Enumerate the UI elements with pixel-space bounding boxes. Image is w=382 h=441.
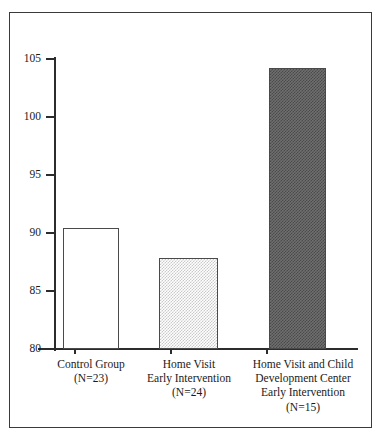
category-label-line: Development Center: [242, 371, 364, 385]
figure-frame: 105 100 95 90 85 80 Control Group (N=23): [9, 12, 372, 428]
bar-home-visit-early-intervention[interactable]: [159, 258, 218, 349]
category-label-line: Home Visit and Child: [242, 357, 364, 371]
category-label-home-visit-and-child-development-center: Home Visit and Child Development Center …: [242, 357, 364, 414]
y-tick-label-105: 105: [24, 53, 41, 64]
y-tick-label-100: 100: [24, 111, 41, 123]
category-label-line: (N=24): [134, 385, 244, 399]
category-label-line: Early Intervention: [134, 371, 244, 385]
y-tick-100: 100: [46, 116, 55, 118]
y-tick-label-85: 85: [30, 285, 42, 297]
y-tick-label-90: 90: [30, 227, 42, 239]
category-label-line: Early Intervention: [242, 385, 364, 399]
category-label-line: (N=15): [242, 400, 364, 414]
bar-home-visit-and-child-development-center-early-intervention[interactable]: [269, 68, 326, 349]
y-tick-85: 85: [46, 290, 55, 292]
category-label-home-visit-early-intervention: Home Visit Early Intervention (N=24): [134, 357, 244, 400]
category-label-line: Control Group: [43, 357, 139, 371]
bar-control-group[interactable]: [63, 228, 119, 349]
y-axis-line: [54, 57, 56, 351]
category-label-line: (N=23): [43, 371, 139, 385]
y-tick-95: 95: [46, 174, 55, 176]
bar-chart-plot-area: 105 100 95 90 85 80 Control Group (N=23): [10, 13, 373, 429]
x-tick-separator-3: [266, 348, 268, 354]
y-tick-90: 90: [46, 232, 55, 234]
y-tick-80: 80: [46, 348, 55, 350]
category-label-control-group: Control Group (N=23): [43, 357, 139, 385]
y-tick-label-95: 95: [30, 169, 42, 181]
y-tick-105: 105: [46, 58, 55, 60]
category-label-line: Home Visit: [134, 357, 244, 371]
y-tick-label-80: 80: [30, 343, 42, 355]
